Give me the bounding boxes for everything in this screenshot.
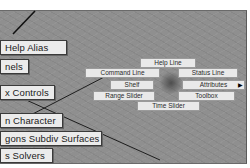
hotbox-fx-controls-label: x Controls [5, 87, 49, 98]
hotbox-polygons-subdiv-label: gons Subdiv Surfaces [5, 133, 99, 144]
range-slider-label: Range Slider [105, 92, 143, 99]
time-slider-label: Time Slider [152, 102, 185, 109]
status-line-label: Status Line [192, 69, 225, 76]
screenshot-frame: Help Alias nels x Controls n Character g… [0, 0, 250, 168]
hotbox-polygons-subdiv-button[interactable]: gons Subdiv Surfaces [0, 131, 102, 146]
hotbox-dynamics-solvers-label: s Solvers [5, 150, 45, 161]
hotbox-fx-controls-button[interactable]: x Controls [0, 85, 55, 100]
marking-menu-range-slider[interactable]: Range Slider [93, 91, 155, 101]
command-line-label: Command Line [100, 69, 144, 76]
hotbox-panels-button[interactable]: nels [0, 59, 29, 74]
submenu-arrow-icon: ▶ [238, 82, 243, 89]
attributes-label: Attributes [200, 81, 227, 88]
marking-menu-toolbox[interactable]: Toolbox [178, 91, 235, 101]
toolbox-label: Toolbox [195, 92, 217, 99]
marking-menu-help-line[interactable]: Help Line [140, 58, 196, 68]
marking-menu-shelf[interactable]: Shelf [110, 80, 154, 90]
marking-menu-time-slider[interactable]: Time Slider [137, 101, 200, 111]
hotbox-panels-label: nels [5, 61, 23, 72]
shelf-label: Shelf [125, 81, 140, 88]
hotbox-help-alias-button[interactable]: Help Alias [0, 40, 67, 55]
marking-menu-attributes[interactable]: Attributes ▶ [182, 80, 245, 90]
hotbox-animation-character-label: n Character [5, 115, 56, 126]
hotbox-dynamics-solvers-button[interactable]: s Solvers [0, 148, 53, 163]
marking-menu-status-line[interactable]: Status Line [178, 68, 238, 78]
hotbox-animation-character-button[interactable]: n Character [0, 113, 63, 128]
marking-menu-command-line[interactable]: Command Line [85, 68, 160, 78]
help-line-label: Help Line [154, 59, 181, 66]
hotbox-help-alias-label: Help Alias [5, 42, 48, 53]
